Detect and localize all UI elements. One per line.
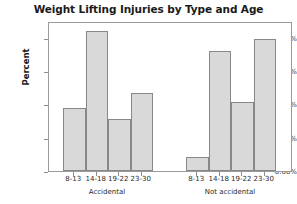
- x-category-label: 19-22: [108, 175, 128, 183]
- x-group-label: Not accidental: [205, 188, 256, 196]
- plot-frame: [48, 22, 292, 172]
- bar: [86, 31, 109, 171]
- chart-title: Weight Lifting Injuries by Type and Age: [0, 3, 297, 15]
- y-tick-mark: [44, 172, 48, 173]
- x-category-label: 19-22: [231, 175, 251, 183]
- plot-area: [49, 23, 291, 171]
- x-category-label: 23-30: [131, 175, 151, 183]
- bar: [254, 39, 277, 171]
- x-category-label: 23-30: [254, 175, 274, 183]
- bar: [131, 93, 154, 171]
- bar: [209, 51, 232, 171]
- bar: [108, 119, 131, 171]
- x-category-label: 8-13: [188, 175, 204, 183]
- x-category-label: 8-13: [65, 175, 81, 183]
- bar: [63, 108, 86, 171]
- x-category-label: 14-18: [209, 175, 229, 183]
- x-group-label: Accidental: [89, 188, 125, 196]
- chart-container: Weight Lifting Injuries by Type and Age …: [0, 0, 297, 204]
- bar: [186, 157, 209, 171]
- y-axis-label: Percent: [21, 37, 31, 97]
- x-category-label: 14-18: [86, 175, 106, 183]
- bar: [231, 102, 254, 171]
